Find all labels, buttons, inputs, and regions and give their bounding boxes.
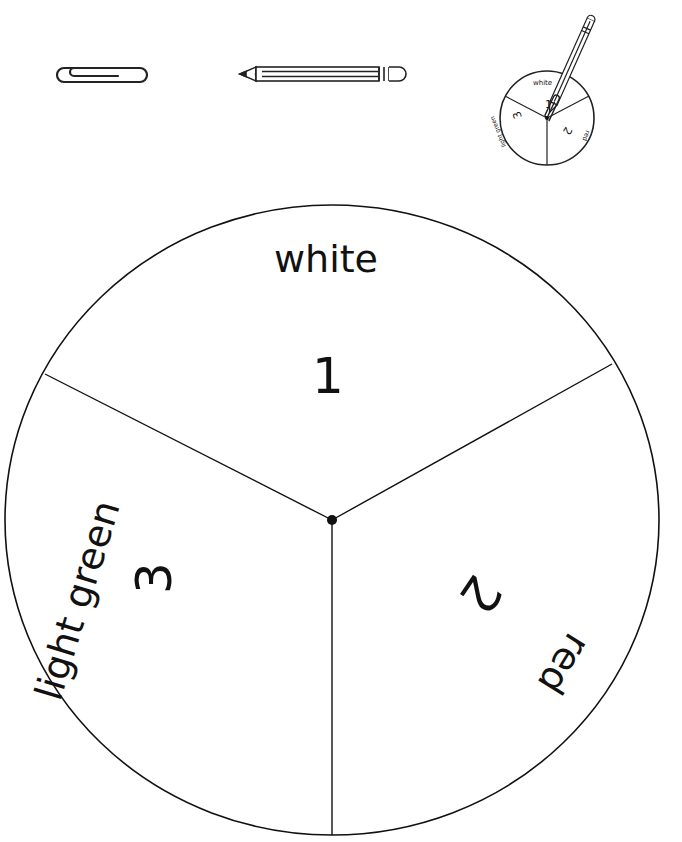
spinner-board: white 1 2 red 3 light green [0,0,682,842]
section-3-number: 3 [125,562,183,594]
section-1-color-label: white [274,237,378,281]
section-1-number: 1 [312,347,344,405]
spinner-center-dot[interactable] [327,515,337,525]
